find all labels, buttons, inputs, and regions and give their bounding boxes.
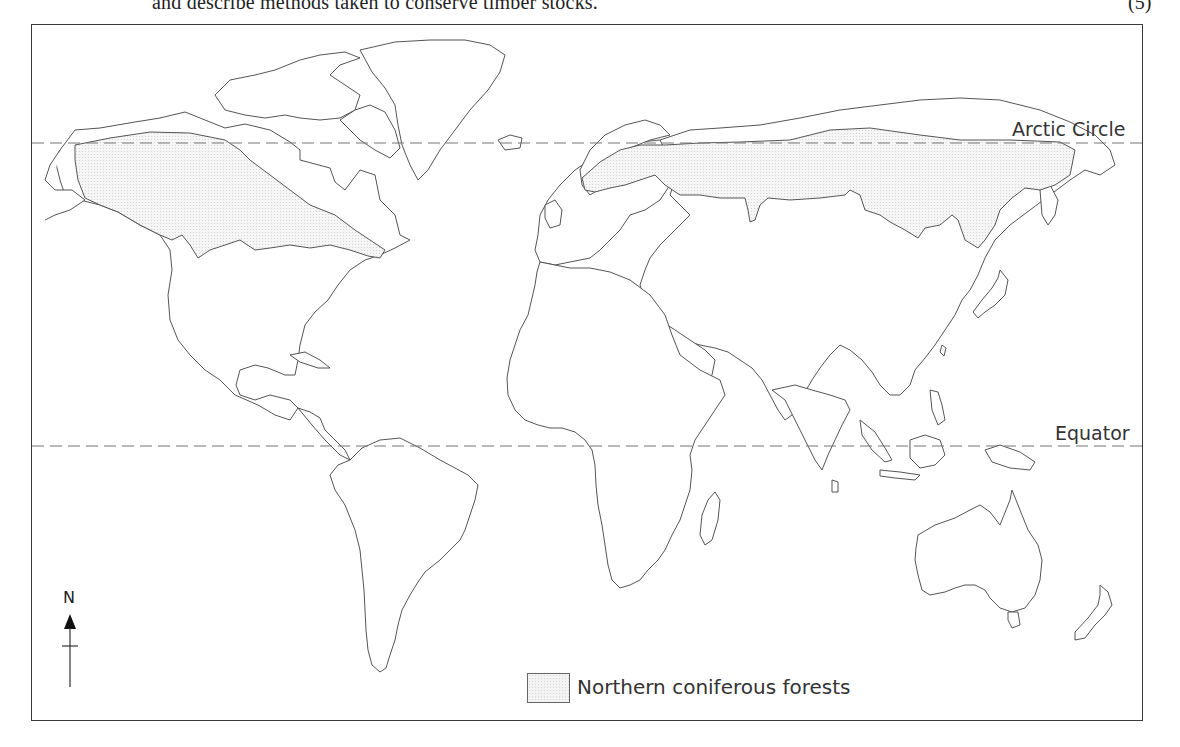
- world-map: [0, 0, 1180, 747]
- arctic-circle-label: Arctic Circle: [1012, 118, 1125, 140]
- new-guinea-outline: [985, 445, 1035, 470]
- arctic-islands-outline: [215, 52, 360, 120]
- north-arrow-icon: [62, 614, 78, 687]
- australia-outline: [915, 490, 1042, 612]
- central-america-outline: [298, 408, 350, 460]
- sri-lanka-outline: [832, 480, 838, 492]
- new-zealand-outline: [1075, 585, 1112, 640]
- south-america-outline: [330, 438, 478, 672]
- borneo-outline: [910, 435, 945, 468]
- tasmania-outline: [1008, 612, 1020, 628]
- madagascar-outline: [700, 492, 720, 545]
- philippines-outline: [930, 390, 945, 425]
- taiwan-outline: [940, 345, 946, 356]
- java-outline: [880, 470, 920, 480]
- equator-label: Equator: [1055, 422, 1130, 444]
- legend-label-coniferous: Northern coniferous forests: [577, 675, 850, 699]
- sumatra-outline: [860, 420, 892, 462]
- north-label: N: [63, 588, 75, 607]
- legend-swatch-coniferous: [527, 673, 570, 703]
- india-outline: [772, 385, 850, 470]
- japan-outline: [973, 270, 1008, 318]
